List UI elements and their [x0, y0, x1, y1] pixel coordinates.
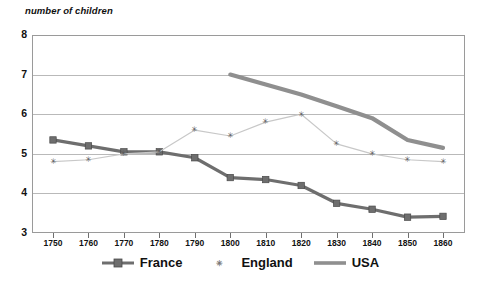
legend-swatch-usa: [313, 257, 347, 269]
legend-swatch-england: ✳: [202, 257, 236, 269]
legend-label: England: [241, 256, 292, 269]
gridline: [33, 114, 464, 115]
y-tick-label: 6: [3, 107, 27, 119]
y-tick-label: 5: [3, 147, 27, 159]
plot-area: [32, 35, 465, 233]
x-tick-label: 1750: [33, 238, 73, 248]
x-tick-mark: [337, 233, 338, 238]
y-tick-label: 3: [3, 226, 27, 238]
x-tick-label: 1860: [423, 238, 463, 248]
x-tick-mark: [301, 233, 302, 238]
x-tick-label: 1760: [68, 238, 108, 248]
x-tick-label: 1810: [246, 238, 286, 248]
y-axis-title: number of children: [25, 5, 113, 16]
legend-item-england[interactable]: ✳England: [202, 256, 292, 269]
gridline: [33, 193, 464, 194]
legend-item-france[interactable]: France: [101, 256, 183, 269]
x-tick-mark: [159, 233, 160, 238]
x-tick-label: 1830: [317, 238, 357, 248]
legend-label: France: [140, 256, 183, 269]
x-tick-label: 1850: [388, 238, 428, 248]
chart-legend: France✳EnglandUSA: [0, 256, 480, 269]
y-tick-label: 4: [3, 186, 27, 198]
chart-container: number of children 345678 17501760177017…: [0, 0, 480, 290]
gridline: [33, 154, 464, 155]
x-tick-mark: [443, 233, 444, 238]
legend-label: USA: [352, 256, 379, 269]
x-tick-mark: [230, 233, 231, 238]
x-tick-label: 1790: [175, 238, 215, 248]
x-tick-mark: [88, 233, 89, 238]
x-tick-label: 1840: [352, 238, 392, 248]
x-tick-label: 1780: [139, 238, 179, 248]
x-tick-label: 1770: [104, 238, 144, 248]
x-tick-mark: [408, 233, 409, 238]
gridline: [33, 75, 464, 76]
x-tick-mark: [372, 233, 373, 238]
legend-item-usa[interactable]: USA: [313, 256, 379, 269]
svg-text:✳: ✳: [216, 259, 223, 268]
x-tick-mark: [266, 233, 267, 238]
x-tick-mark: [195, 233, 196, 238]
y-tick-label: 8: [3, 28, 27, 40]
legend-swatch-france: [101, 257, 135, 269]
x-tick-mark: [124, 233, 125, 238]
x-tick-label: 1820: [281, 238, 321, 248]
x-tick-label: 1800: [210, 238, 250, 248]
x-tick-mark: [53, 233, 54, 238]
y-tick-label: 7: [3, 68, 27, 80]
